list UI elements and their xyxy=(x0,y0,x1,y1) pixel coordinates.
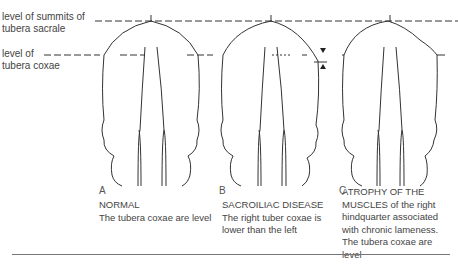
figure-c-atrophy xyxy=(342,15,437,186)
panel-c-text: MUSCLES of the right hindquarter associa… xyxy=(342,199,454,262)
panel-a-caption: NORMAL The tubera coxae are level xyxy=(99,199,219,224)
panel-a-letter: A xyxy=(99,185,106,196)
panel-b-title: SACROILIAC DISEASE xyxy=(222,199,338,212)
panel-b-letter: B xyxy=(219,185,226,196)
figure-a-normal xyxy=(102,15,199,186)
figure-b-sacroiliac xyxy=(221,15,327,186)
panel-b-caption: SACROILIAC DISEASE The right tuber coxae… xyxy=(222,199,338,237)
panel-c-title: ATROPHY OF THE xyxy=(342,186,454,199)
panel-a-text: The tubera coxae are level xyxy=(99,212,219,225)
panel-b-text: The right tuber coxae is lower than the … xyxy=(222,212,338,237)
bottom-rule xyxy=(12,254,450,255)
panel-a-title: NORMAL xyxy=(99,199,219,212)
panel-c-caption: ATROPHY OF THE MUSCLES of the right hind… xyxy=(342,186,454,261)
level-difference-arrows xyxy=(320,48,326,69)
